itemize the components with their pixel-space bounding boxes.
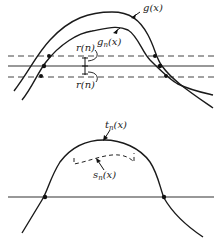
gn-arrowhead [113, 29, 118, 34]
label-tn-arg: (x) [114, 119, 127, 130]
curve-sn [74, 153, 134, 164]
label-gn-arg: (x) [108, 36, 121, 47]
crossing-dot [43, 195, 47, 199]
label-sn: sn(x) [93, 170, 116, 182]
sn-arrowhead [96, 158, 101, 163]
intersection-dot [39, 74, 43, 78]
label-r-lower: r(n) [76, 80, 95, 90]
label-r-upper: r(n) [76, 43, 95, 53]
intersection-dot [42, 64, 46, 68]
intersection-dot [153, 54, 157, 58]
intersection-dot [47, 54, 51, 58]
label-tn: tn(x) [105, 120, 127, 132]
label-g: g(x) [143, 3, 163, 13]
label-gn: gn(x) [97, 37, 121, 49]
intersection-dot [158, 64, 162, 68]
curve-g [14, 12, 213, 108]
label-sn-arg: (x) [103, 169, 116, 180]
figure: g(x) gn(x) r(n) r(n) tn(x) sn(x) [0, 0, 221, 241]
crossing-dot [162, 195, 166, 199]
intersection-dot [164, 74, 168, 78]
